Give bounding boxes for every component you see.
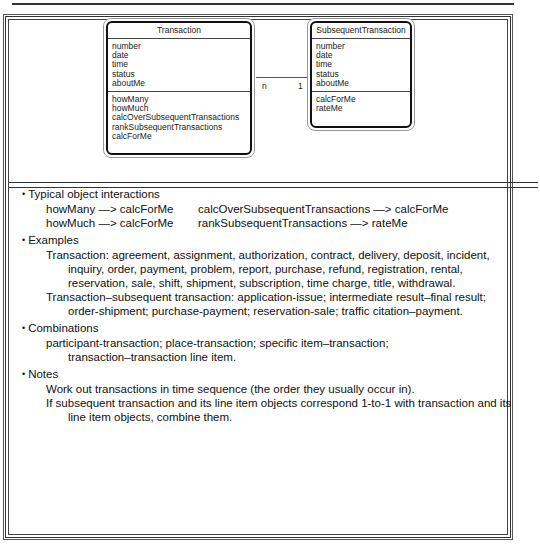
attribute: date [112,51,246,60]
attributes-section: number date time status aboutMe [312,39,410,91]
top-rule [12,3,514,5]
attributes-section: number date time status aboutMe [108,39,250,91]
section-heading: Typical object interactions [22,187,512,202]
multiplicity-n: n [262,81,267,91]
pattern-notes: Typical object interactions howMany —> c… [22,187,512,427]
class-name: Transaction [108,23,250,39]
section-notes: Notes Work out transactions in time sequ… [22,367,512,424]
multiplicity-1: 1 [298,81,303,91]
section-combinations: Combinations participant-transaction; pl… [22,321,512,364]
services-section: calcForMe rateMe [312,91,410,116]
attribute: aboutMe [316,79,406,88]
note-item: If subsequent transaction and its line i… [22,396,512,424]
attribute: aboutMe [112,79,246,88]
interaction-item: rankSubsequentTransactions —> rateMe [198,216,512,230]
note-item: Work out transactions in time sequence (… [22,382,512,396]
class-subsequent-transaction[interactable]: SubsequentTransaction number date time s… [307,18,415,131]
interaction-item: howMany —> calcForMe [46,202,198,216]
example-item: Transaction–subsequent transaction: appl… [22,290,512,318]
section-heading: Combinations [22,321,512,336]
interaction-item: calcOverSubsequentTransactions —> calcFo… [198,202,512,216]
combination-item: participant-transaction; place-transacti… [22,336,512,364]
services-section: howMany howMuch calcOverSubsequentTransa… [108,91,250,144]
class-transaction[interactable]: Transaction number date time status abou… [103,18,255,158]
service: calcForMe [112,132,246,141]
section-heading: Notes [22,367,512,382]
attribute: number [112,42,246,51]
class-name: SubsequentTransaction [312,23,410,39]
association-line [256,77,307,78]
section-interactions: Typical object interactions howMany —> c… [22,187,512,230]
service: rateMe [316,104,406,113]
interaction-item: howMuch —> calcForMe [46,216,198,230]
example-item: Transaction: agreement, assignment, auth… [22,248,512,290]
section-heading: Examples [22,233,512,248]
section-examples: Examples Transaction: agreement, assignm… [22,233,512,318]
